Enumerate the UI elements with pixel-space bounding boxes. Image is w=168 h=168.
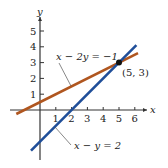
x-tick-label: 4 [100, 113, 106, 124]
leader-line-eq1 [59, 63, 71, 86]
y-tick-label: 4 [30, 41, 36, 52]
y-tick-label: 3 [30, 57, 36, 68]
intersection-label: (5, 3) [122, 67, 149, 78]
y-tick-label: 2 [30, 73, 36, 84]
chart: x y 1 2 3 4 5 6 1 2 3 4 5 (5, 3) x − 2y … [0, 0, 168, 168]
x-tick-label: 5 [116, 113, 122, 124]
x-tick-label: 6 [132, 113, 138, 124]
x-tick-label: 3 [84, 113, 90, 124]
y-tick-label: 5 [30, 26, 36, 37]
y-tick-label: 1 [30, 89, 36, 100]
equation-label-2: x − y = 2 [74, 140, 121, 151]
x-axis-label: x [150, 104, 156, 115]
y-ticks: 1 2 3 4 5 [30, 26, 44, 100]
x-axis-arrow-icon [143, 108, 147, 112]
x-tick-label: 2 [68, 113, 74, 124]
y-axis-label: y [36, 6, 43, 17]
y-axis-arrow-icon [38, 17, 42, 21]
leader-line-eq2 [55, 127, 71, 145]
equation-label-1: x − 2y = −1 [56, 51, 118, 62]
